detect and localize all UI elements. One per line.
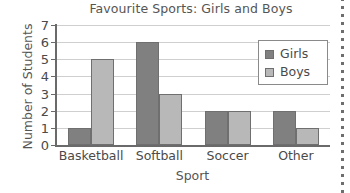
y-tick-label-7: 7 [36,19,49,32]
x-label-other: Other [262,148,330,163]
bar-soccer-boys [228,111,251,145]
y-tick-label-4: 4 [36,70,49,83]
y-tick-label-1: 1 [36,122,49,135]
chart-title: Favourite Sports: Girls and Boys [55,1,327,16]
x-axis-line [55,145,330,147]
y-tick-label-2: 2 [36,105,49,118]
y-tick-mark-4 [51,76,57,77]
y-tick-label-5: 5 [36,53,49,66]
y-tick-mark-5 [51,59,57,60]
bar-softball-boys [159,94,182,145]
y-tick-mark-6 [51,42,57,43]
legend-label-girls: Girls [280,48,308,61]
legend-swatch-girls-icon [265,50,274,59]
legend-item-boys: Boys [265,63,327,81]
gridline-7 [57,25,330,26]
y-tick-mark-1 [51,128,57,129]
bar-basketball-boys [91,59,114,145]
x-label-softball: Softball [125,148,193,163]
y-tick-label-3: 3 [36,88,49,101]
y-tick-mark-2 [51,111,57,112]
bar-soccer-girls [205,111,228,145]
y-tick-mark-7 [51,25,57,26]
y-tick-mark-3 [51,94,57,95]
bar-other-girls [273,111,296,145]
bar-basketball-girls [68,128,91,145]
bar-other-boys [296,128,319,145]
x-label-soccer: Soccer [194,148,262,163]
x-axis-title: Sport [55,168,330,183]
chart-legend: Girls Boys [258,40,328,85]
legend-label-boys: Boys [280,66,310,79]
y-tick-mark-0 [51,145,57,146]
y-axis-title: Number of Students [20,17,35,157]
y-tick-label-6: 6 [36,36,49,49]
margin-rule-dotted-line [341,0,344,193]
legend-swatch-boys-icon [265,68,274,77]
bar-softball-girls [136,42,159,145]
chart-page: Favourite Sports: Girls and Boys Number … [0,0,350,193]
legend-item-girls: Girls [265,45,327,63]
y-tick-label-0: 0 [36,139,49,152]
x-label-basketball: Basketball [57,148,125,163]
